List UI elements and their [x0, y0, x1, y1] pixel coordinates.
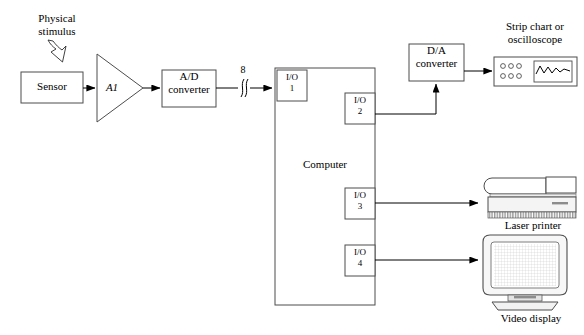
- physical-stimulus-arrow-icon: [48, 40, 66, 62]
- diagram-vector-layer: [0, 0, 584, 335]
- bus-slash-icon: [241, 79, 248, 97]
- laser-printer-icon: [484, 177, 576, 218]
- io-port-2: [345, 93, 375, 124]
- block-diagram-canvas: Physicalstimulus Sensor A1 A/Dconverter …: [0, 0, 584, 335]
- io-port-3: [345, 188, 375, 219]
- da-converter-block: [409, 44, 464, 81]
- wire-io2-to-dac: [375, 84, 436, 114]
- io-port-1: [277, 70, 307, 101]
- amplifier-block: [97, 54, 143, 122]
- strip-chart-oscilloscope-icon: [494, 57, 577, 86]
- ad-converter-block: [162, 70, 216, 107]
- io-port-4: [345, 245, 375, 276]
- sensor-block: [21, 72, 83, 103]
- video-display-icon: [483, 235, 567, 310]
